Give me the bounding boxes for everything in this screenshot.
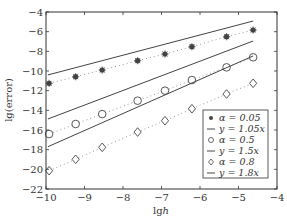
y-axis-label: lg(error) [3,78,14,122]
legend-label: α = 0.05 [219,112,261,123]
legend-label: y = 1.5x [218,145,259,156]
diamond-marker [188,104,195,113]
x-tick-label: −4 [270,192,285,203]
y-tick-label: −16 [22,125,43,136]
y-tick-label: −8 [28,46,43,57]
circle-marker [134,97,142,105]
y-tick-label: −6 [28,26,43,37]
diamond-marker [161,116,168,125]
y-tick-label: −20 [22,164,43,175]
y-tick-label: −12 [22,85,43,96]
circle-marker [72,120,80,128]
diamond-marker [99,143,106,152]
diamond-marker [134,128,141,137]
legend-label: y = 1.05x [218,123,266,134]
legend-label: y = 1.8x [218,167,259,178]
y-tick-label: −10 [22,66,43,77]
dotted-connector [49,30,253,83]
x-tick-label: −6 [193,192,208,203]
diamond-marker [45,166,52,175]
legend-label: α = 0.8 [219,156,255,167]
series-y-1.5x [48,41,253,119]
y-tick-label: −22 [22,184,43,195]
diamond-marker [250,79,257,88]
chart: −10−9−8−7−6−5−4−4−6−8−10−12−14−16−18−20−… [0,0,287,221]
y-tick-label: −4 [28,7,43,18]
x-tick-label: −8 [116,192,131,203]
legend-label: α = 0.5 [219,134,255,145]
x-tick-label: −5 [231,192,246,203]
reference-line [48,41,253,119]
series--0.05 [45,26,256,86]
x-tick-label: −7 [154,192,169,203]
diamond-marker [72,155,79,164]
diamond-marker [223,90,230,99]
legend: α = 0.05y = 1.05xα = 0.5y = 1.5xα = 0.8y… [203,110,268,178]
x-axis-label: lgh [153,205,169,216]
x-tick-label: −9 [77,192,92,203]
y-tick-label: −14 [22,105,43,116]
circle-marker [98,110,106,118]
y-tick-label: −18 [22,144,43,155]
